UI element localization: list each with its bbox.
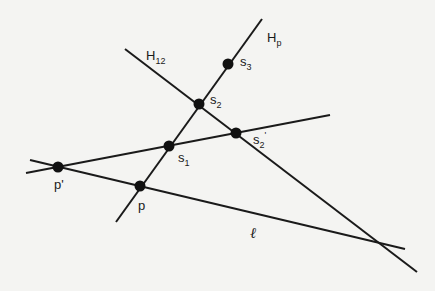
point-p-prime [53,162,64,173]
label-p-prime: p' [54,177,64,192]
line-hp [116,19,262,222]
point-s2-prime [231,128,242,139]
label-l: ℓ [250,225,256,241]
line-l [30,160,405,249]
label-p: p [138,198,145,213]
geometry-diagram: Hp H12 s3 s2 s2' s1 p' p ℓ [0,0,435,291]
label-s2-prime: s2' [253,130,267,150]
label-s1: s1 [178,150,190,168]
line-h12 [125,49,417,272]
label-h12: H12 [146,48,165,66]
point-s3 [223,59,234,70]
label-s2: s2 [210,92,222,110]
point-s2 [194,99,205,110]
label-hp: Hp [267,30,281,48]
label-s3: s3 [240,54,252,72]
point-s1 [164,141,175,152]
point-p [135,181,146,192]
